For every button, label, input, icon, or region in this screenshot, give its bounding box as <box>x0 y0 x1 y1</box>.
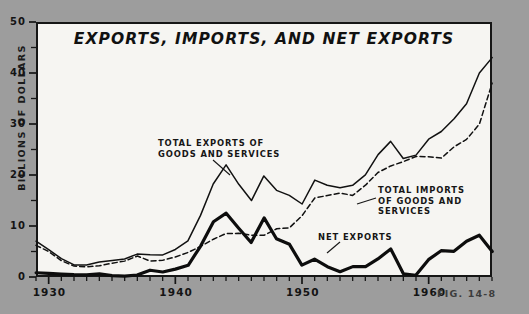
y-tick-label: 0 <box>2 271 26 282</box>
x-tick-label: 1930 <box>33 286 67 298</box>
series-line-net-exports <box>36 213 492 276</box>
leader-net-exports <box>327 242 340 253</box>
y-tick-label: 20 <box>2 169 26 180</box>
series-line-total-exports <box>36 58 492 265</box>
series-line-total-imports <box>36 83 492 267</box>
y-tick-label: 10 <box>2 220 26 231</box>
y-tick-label: 50 <box>2 16 26 27</box>
annotation-net-exports: NET EXPORTS <box>318 232 393 243</box>
annotation-total-exports: TOTAL EXPORTS OF GOODS AND SERVICES <box>158 138 280 159</box>
y-tick-label: 40 <box>2 67 26 78</box>
leader-total-imports <box>357 198 376 204</box>
y-tick-label: 30 <box>2 118 26 129</box>
figure-container: EXPORTS, IMPORTS, AND NET EXPORTS BILLIO… <box>0 0 529 314</box>
x-tick-label: 1940 <box>159 286 193 298</box>
data-series-group <box>36 58 492 277</box>
x-tick-label: 1950 <box>286 286 320 298</box>
figure-number: FIG. 14-8 <box>437 288 496 299</box>
annotation-total-imports: TOTAL IMPORTS OF GOODS AND SERVICES <box>378 185 465 217</box>
